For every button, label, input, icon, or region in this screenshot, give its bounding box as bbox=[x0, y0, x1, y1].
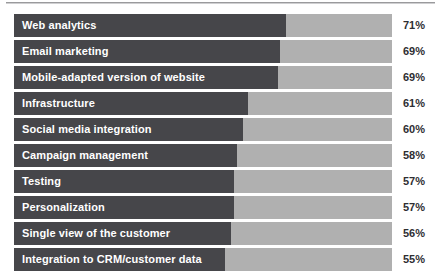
bar-value-label: 57% bbox=[403, 196, 437, 219]
bar-row: Personalization57% bbox=[0, 196, 441, 219]
bar-row: Testing57% bbox=[0, 170, 441, 193]
bar-row: Web analytics71% bbox=[0, 14, 441, 37]
bar-category-label: Social media integration bbox=[22, 118, 152, 141]
bar-track: Campaign management bbox=[14, 144, 392, 167]
bar-category-label: Personalization bbox=[22, 196, 105, 219]
bar-track: Testing bbox=[14, 170, 392, 193]
bar-category-label: Email marketing bbox=[22, 40, 108, 63]
bar-category-label: Campaign management bbox=[22, 144, 148, 167]
bar-category-label: Testing bbox=[22, 170, 61, 193]
bar-track: Single view of the customer bbox=[14, 222, 392, 245]
bar-rows-container: Web analytics71%Email marketing69%Mobile… bbox=[0, 14, 441, 274]
bar-track: Web analytics bbox=[14, 14, 392, 37]
bar-value-label: 60% bbox=[403, 118, 437, 141]
bar-row: Integration to CRM/customer data55% bbox=[0, 248, 441, 271]
bar-value-label: 56% bbox=[403, 222, 437, 245]
bar-category-label: Mobile-adapted version of website bbox=[22, 66, 205, 89]
bar-category-label: Single view of the customer bbox=[22, 222, 170, 245]
bar-row: Email marketing69% bbox=[0, 40, 441, 63]
bar-row: Infrastructure61% bbox=[0, 92, 441, 115]
bar-track: Infrastructure bbox=[14, 92, 392, 115]
bar-value-label: 61% bbox=[403, 92, 437, 115]
bar-row: Single view of the customer56% bbox=[0, 222, 441, 245]
bar-value-label: 58% bbox=[403, 144, 437, 167]
bar-value-label: 69% bbox=[403, 66, 437, 89]
bar-track: Integration to CRM/customer data bbox=[14, 248, 392, 271]
bar-value-label: 57% bbox=[403, 170, 437, 193]
bar-track: Personalization bbox=[14, 196, 392, 219]
bar-category-label: Web analytics bbox=[22, 14, 96, 37]
bar-category-label: Infrastructure bbox=[22, 92, 95, 115]
bar-value-label: 69% bbox=[403, 40, 437, 63]
bar-row: Campaign management58% bbox=[0, 144, 441, 167]
bar-value-label: 55% bbox=[403, 248, 437, 271]
bar-row: Social media integration60% bbox=[0, 118, 441, 141]
bar-track: Mobile-adapted version of website bbox=[14, 66, 392, 89]
bar-row: Mobile-adapted version of website69% bbox=[0, 66, 441, 89]
bar-category-label: Integration to CRM/customer data bbox=[22, 248, 202, 271]
bar-track: Email marketing bbox=[14, 40, 392, 63]
top-divider-rule-shadow bbox=[6, 3, 435, 4]
bar-track: Social media integration bbox=[14, 118, 392, 141]
bar-value-label: 71% bbox=[403, 14, 437, 37]
